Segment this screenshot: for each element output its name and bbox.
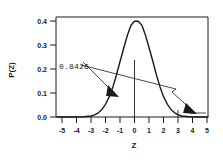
x-tick-label: -5 — [59, 127, 65, 134]
y-axis-title: P(Z) — [7, 62, 16, 78]
x-tick-label: 2 — [162, 127, 166, 134]
y-tick-label: 0.0 — [37, 114, 47, 121]
x-tick-label: -2 — [102, 127, 108, 134]
y-tick-label: 0.2 — [37, 66, 47, 73]
x-tick-label: 5 — [205, 127, 209, 134]
chart-figure: 0.4 0.3 0.2 0.1 0.0 P(Z) -5 -4 -3 — [0, 0, 223, 160]
y-tick-label: 0.4 — [37, 18, 47, 25]
x-axis-ticks — [62, 117, 207, 123]
y-tick-label: 0.1 — [37, 90, 47, 97]
x-axis-title: Z — [132, 141, 137, 150]
normal-distribution-chart: 0.4 0.3 0.2 0.1 0.0 P(Z) -5 -4 -3 — [0, 0, 223, 160]
x-tick-label: 1 — [147, 127, 151, 134]
x-tick-label: -3 — [88, 127, 94, 134]
y-axis-tick-labels: 0.4 0.3 0.2 0.1 0.0 — [37, 18, 47, 121]
x-tick-label: -1 — [117, 127, 123, 134]
x-tick-label: 3 — [176, 127, 180, 134]
x-axis-tick-labels: -5 -4 -3 -2 -1 0 1 2 3 4 5 — [59, 127, 209, 134]
y-axis-ticks — [50, 21, 56, 117]
x-tick-label: 4 — [191, 127, 195, 134]
annotation-arrow-right-tail — [81, 65, 206, 114]
x-tick-label: 0 — [133, 127, 137, 134]
y-tick-label: 0.3 — [37, 42, 47, 49]
x-tick-label: -4 — [73, 127, 79, 134]
